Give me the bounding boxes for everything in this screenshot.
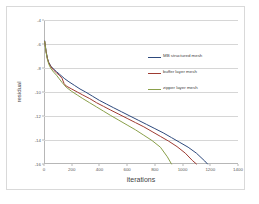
x-tick-mark bbox=[210, 164, 211, 166]
y-tick-label: -12 bbox=[35, 114, 41, 119]
y-tick-label: -10 bbox=[35, 90, 41, 95]
x-tick-mark bbox=[238, 164, 239, 166]
y-tick-label: -4 bbox=[37, 18, 41, 23]
y-tick-label: -16 bbox=[35, 162, 41, 167]
x-tick-label: 1400 bbox=[233, 167, 243, 172]
x-tick-label: 400 bbox=[96, 167, 103, 172]
x-tick-mark bbox=[44, 164, 45, 166]
x-tick-mark bbox=[71, 164, 72, 166]
legend-label: MB structured mesh bbox=[163, 53, 202, 58]
x-tick-label: 800 bbox=[151, 167, 158, 172]
x-tick-label: 0 bbox=[43, 167, 45, 172]
x-tick-label: 600 bbox=[123, 167, 130, 172]
x-tick-mark bbox=[154, 164, 155, 166]
x-tick-mark bbox=[127, 164, 128, 166]
x-tick-mark bbox=[99, 164, 100, 166]
x-axis-title: iterations bbox=[44, 176, 238, 183]
legend-color-swatch bbox=[148, 73, 161, 74]
legend-label: zipper layer mesh bbox=[163, 85, 198, 90]
legend-item[interactable]: MB structured mesh bbox=[148, 50, 232, 66]
x-tick-label: 1000 bbox=[178, 167, 188, 172]
y-tick-label: -6 bbox=[37, 42, 41, 47]
x-tick-label: 1200 bbox=[205, 167, 215, 172]
y-axis-title: residual bbox=[16, 81, 22, 102]
x-tick-label: 200 bbox=[68, 167, 75, 172]
x-tick-mark bbox=[182, 164, 183, 166]
y-tick-label: -8 bbox=[37, 66, 41, 71]
chart-screenshot: residual -4-6-8-10-12-14-16 020040060080… bbox=[0, 0, 259, 204]
legend-item[interactable]: buffer layer mesh bbox=[148, 66, 232, 82]
legend-item[interactable]: zipper layer mesh bbox=[148, 82, 232, 98]
legend: MB structured meshbuffer layer meshzippe… bbox=[148, 50, 232, 98]
legend-color-swatch bbox=[148, 57, 161, 58]
y-tick-label: -14 bbox=[35, 138, 41, 143]
legend-color-swatch bbox=[148, 89, 161, 90]
legend-label: buffer layer mesh bbox=[163, 69, 197, 74]
